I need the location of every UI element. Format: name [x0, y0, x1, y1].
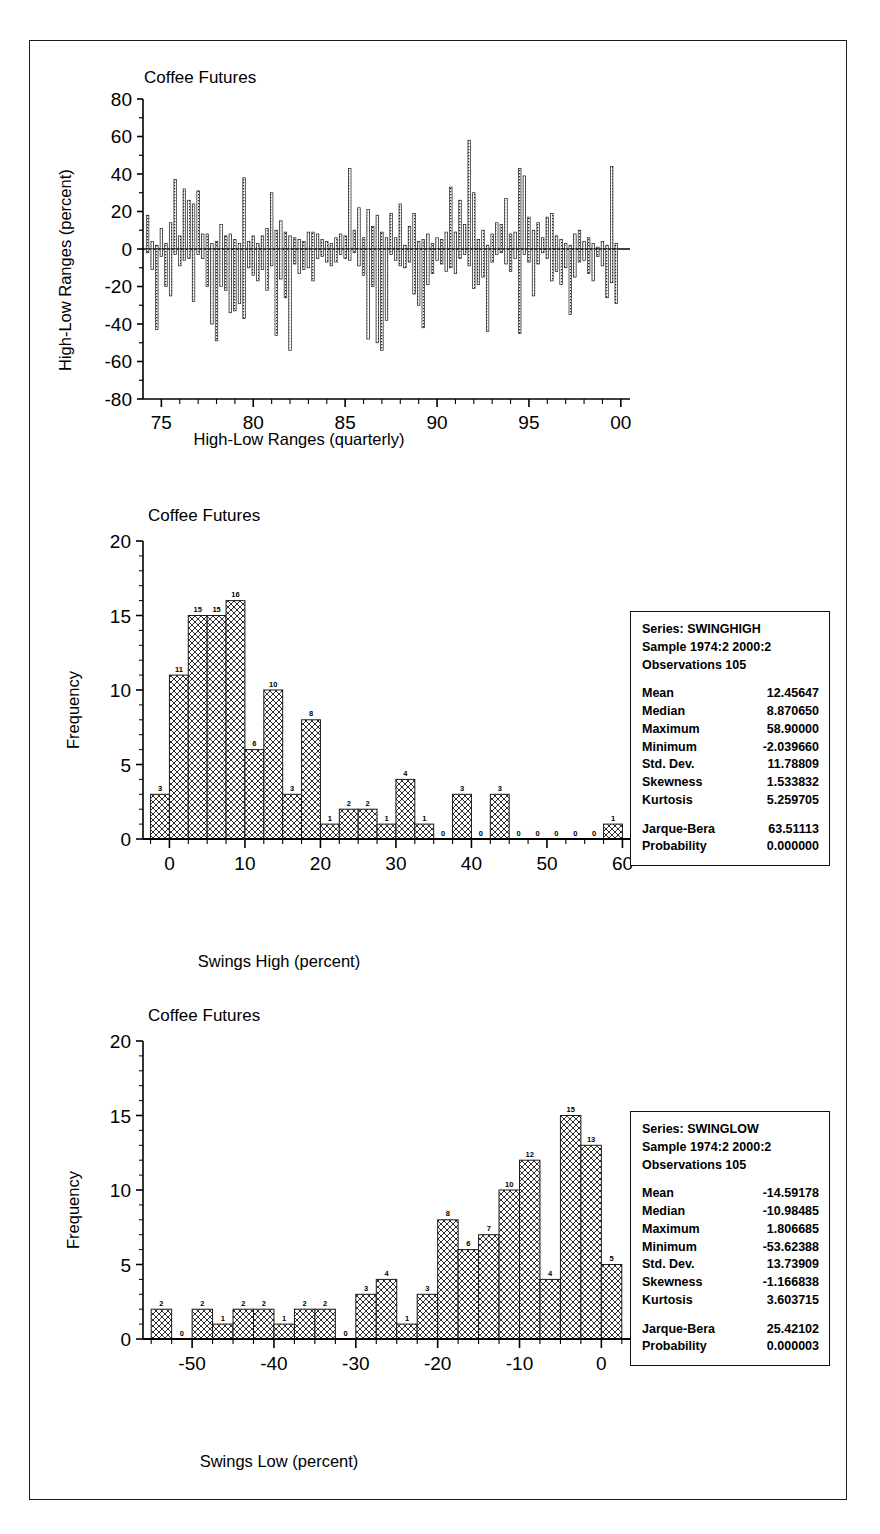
panel1-bar-high — [312, 232, 315, 249]
stat-row: Maximum1.806685 — [642, 1221, 819, 1239]
hist-bar — [226, 601, 245, 839]
panel1-bar-low — [445, 249, 448, 272]
hist-bar-label: 0 — [479, 829, 483, 838]
panel1-bar-low — [252, 249, 255, 275]
stat-row: Kurtosis3.603715 — [642, 1292, 819, 1310]
panel1-bar-high — [224, 236, 227, 249]
panel1-bar-high — [371, 227, 374, 250]
panel1-bar-low — [518, 249, 521, 333]
hist-bar-label: 8 — [446, 1209, 450, 1218]
panel1-bar-high — [592, 243, 595, 249]
panel1-bar-low — [454, 249, 457, 273]
panel1-bar-low — [610, 249, 613, 283]
stats-tail-rows: Jarque-Bera25.42102Probability0.000003 — [642, 1321, 819, 1357]
stat-value: -10.98485 — [749, 1203, 819, 1221]
stat-key: Jarque-Bera — [642, 1321, 725, 1339]
panel1-bar-low — [385, 249, 388, 320]
panel1-bar-high — [486, 245, 489, 249]
panel1-bar-high — [569, 245, 572, 249]
panel1-bar-low — [431, 249, 434, 273]
panel1-bar-low — [151, 249, 154, 270]
panel1-bar-high — [353, 230, 356, 249]
panel1-bar-low — [390, 249, 393, 255]
hist-bar-label: 6 — [252, 739, 256, 748]
panel1-bar-low — [358, 249, 361, 266]
panel1-bar-high — [243, 178, 246, 249]
panel1-x-tick-label: 00 — [610, 412, 631, 433]
hist-bar-label: 1 — [384, 814, 388, 823]
panel1-bar-high — [298, 240, 301, 249]
panel1-bar-low — [491, 249, 494, 262]
hist-y-tick-label: 20 — [110, 1031, 131, 1052]
hist-y-tick-label: 5 — [120, 1255, 131, 1276]
panel1-y-tick-label: 80 — [111, 89, 132, 110]
panel1-bar-low — [206, 249, 209, 287]
panel1-bar-low — [247, 249, 250, 268]
hist-bar-label: 3 — [460, 784, 464, 793]
panel1-x-tick-label: 85 — [335, 412, 356, 433]
panel1-bar-low — [523, 249, 526, 255]
panel1-bar-low — [551, 249, 554, 281]
panel1-bar-low — [197, 249, 200, 255]
panel1-bar-low — [321, 249, 324, 257]
stat-value: 58.90000 — [749, 721, 819, 739]
hist-y-tick-label: 5 — [120, 755, 131, 776]
panel1-bar-high — [326, 242, 329, 250]
hist-bar — [376, 1279, 396, 1339]
hist-x-tick-label: -50 — [178, 1353, 205, 1374]
panel1-bar-low — [394, 249, 397, 260]
hist-bar-label: 16 — [231, 590, 239, 599]
panel1-bar-high — [348, 168, 351, 249]
stat-key: Kurtosis — [642, 1292, 703, 1310]
panel1-bar-low — [564, 249, 567, 268]
panel1-bar-low — [211, 249, 214, 324]
panel1-bar-low — [174, 249, 177, 255]
stats-box-swinglow: Series: SWINGLOW Sample 1974:2 2000:2 Ob… — [630, 1111, 830, 1366]
stats-sample: Sample 1974:2 2000:2 — [642, 1139, 819, 1157]
panel1-bar-low — [477, 249, 480, 285]
panel1-bar-low — [440, 249, 443, 264]
panel1-bar-high — [564, 243, 567, 249]
hist-bar-label: 3 — [290, 784, 294, 793]
stats-tail-rows: Jarque-Bera63.51113Probability0.000000 — [642, 821, 819, 857]
panel1-bar-low — [229, 249, 232, 313]
panel1-bar-low — [555, 249, 558, 272]
stat-key: Std. Dev. — [642, 1256, 705, 1274]
panel1-bar-high — [427, 234, 430, 249]
hist-bar-label: 0 — [573, 829, 577, 838]
panel1-bar-high — [399, 204, 402, 249]
panel1-bar-high — [532, 230, 535, 249]
panel1-bar-low — [399, 249, 402, 266]
panel1-bar-low — [362, 249, 365, 275]
panel1-bar-high — [321, 240, 324, 249]
hist-x-tick-label: 0 — [164, 853, 175, 874]
panel1-bar-high — [408, 227, 411, 250]
panel1-bar-low — [146, 249, 149, 253]
panel1-bar-low — [348, 249, 351, 260]
hist-bar — [560, 1116, 580, 1340]
panel1-bar-high — [615, 243, 618, 249]
hist-bar-label: 1 — [221, 1314, 225, 1323]
panel1-bar-high — [546, 217, 549, 249]
panel1-bar-high — [496, 223, 499, 249]
panel1-bar-high — [500, 225, 503, 249]
panel1-y-tick-label: -40 — [105, 314, 132, 335]
hist-x-tick-label: -30 — [342, 1353, 369, 1374]
panel1-bar-low — [298, 249, 301, 273]
hist-bar — [294, 1309, 314, 1339]
panel1-bar-low — [408, 249, 411, 262]
hist-bar — [417, 1294, 437, 1339]
panel1-bar-high — [206, 234, 209, 249]
panel1-bar-high — [234, 240, 237, 249]
panel1-bar-high — [574, 234, 577, 249]
panel1-bar-high — [514, 232, 517, 249]
hist-bar — [169, 675, 188, 839]
hist-bar — [397, 1324, 417, 1339]
hist-bar — [213, 1324, 233, 1339]
panel1-bar-high — [275, 230, 278, 249]
stat-row: Skewness-1.166838 — [642, 1274, 819, 1292]
hist-bar — [315, 1309, 335, 1339]
panel1-bar-high — [146, 215, 149, 249]
panel1-bar-low — [583, 249, 586, 260]
stat-key: Skewness — [642, 774, 712, 792]
